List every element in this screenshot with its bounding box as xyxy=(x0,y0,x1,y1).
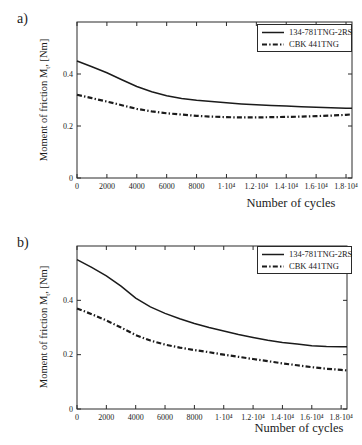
legend-a-item-dashdot: CBK 441TNG xyxy=(258,38,351,50)
legend-b-label-dashdot: CBK 441TNG xyxy=(289,261,339,271)
svg-text:1.2·10⁴: 1.2·10⁴ xyxy=(245,182,269,191)
chart-panel-a: a) Moment of friction Mt, [Nm] 020004000… xyxy=(0,0,362,222)
svg-text:1.4·10⁴: 1.4·10⁴ xyxy=(275,182,299,191)
legend-a-label-solid: 134-781TNG-2RS xyxy=(289,27,352,37)
x-axis-label-a: Number of cycles xyxy=(226,196,356,211)
legend-b-label-solid: 134-781TNG-2RS xyxy=(289,249,352,259)
svg-text:8000: 8000 xyxy=(189,182,205,191)
svg-text:1·10⁴: 1·10⁴ xyxy=(215,413,233,422)
solid-line-icon xyxy=(261,250,285,259)
x-axis-label-b: Number of cycles xyxy=(234,421,362,436)
svg-text:0.2: 0.2 xyxy=(63,350,73,359)
legend-b: 134-781TNG-2RS CBK 441TNG xyxy=(257,246,352,274)
legend-a: 134-781TNG-2RS CBK 441TNG xyxy=(257,24,352,52)
dashdot-line-icon xyxy=(261,40,285,49)
svg-text:2000: 2000 xyxy=(98,413,114,422)
svg-text:0.2: 0.2 xyxy=(63,122,73,131)
svg-text:0.4: 0.4 xyxy=(63,296,73,305)
svg-text:6000: 6000 xyxy=(159,182,175,191)
svg-text:2000: 2000 xyxy=(99,182,115,191)
chart-panel-b: b) Moment of friction Mt, [Nm] 020004000… xyxy=(0,222,362,445)
svg-text:1.6·10⁴: 1.6·10⁴ xyxy=(304,182,328,191)
legend-b-item-solid: 134-781TNG-2RS xyxy=(258,248,351,260)
solid-line-icon xyxy=(261,28,285,37)
svg-text:1·10⁴: 1·10⁴ xyxy=(218,182,236,191)
svg-text:4000: 4000 xyxy=(129,182,145,191)
svg-text:6000: 6000 xyxy=(157,413,173,422)
legend-a-item-solid: 134-781TNG-2RS xyxy=(258,26,351,38)
svg-text:1.8·10⁴: 1.8·10⁴ xyxy=(334,182,358,191)
legend-a-label-dashdot: CBK 441TNG xyxy=(289,39,339,49)
svg-text:0.4: 0.4 xyxy=(63,70,73,79)
dashdot-line-icon xyxy=(261,262,285,271)
svg-text:0: 0 xyxy=(75,413,79,422)
svg-text:8000: 8000 xyxy=(186,413,202,422)
svg-text:0: 0 xyxy=(75,182,79,191)
svg-text:0: 0 xyxy=(69,174,73,183)
legend-b-item-dashdot: CBK 441TNG xyxy=(258,260,351,272)
svg-text:0: 0 xyxy=(69,405,73,414)
svg-text:4000: 4000 xyxy=(128,413,144,422)
figure-two-friction-charts: { "colors": {"line": "#1b1b1b", "axis": … xyxy=(0,0,362,445)
